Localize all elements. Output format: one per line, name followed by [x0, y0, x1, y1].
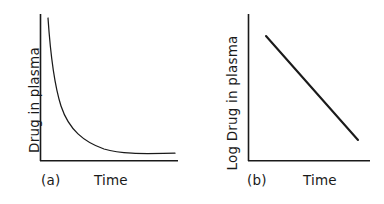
panel-a-caption: (a) — [41, 172, 60, 188]
panel-b-caption: (b) — [247, 172, 267, 188]
panel-a: Drug in plasma (a) Time — [0, 0, 192, 204]
panel-a-y-axis-label: Drug in plasma — [26, 40, 42, 160]
panel-b-log-linear-line — [266, 36, 358, 140]
panel-a-x-axis-label: Time — [94, 172, 128, 188]
panel-b-y-axis-label: Log Drug in plasma — [224, 28, 240, 178]
panel-a-decay-curve — [48, 18, 175, 154]
panel-b-plot — [192, 0, 384, 204]
panel-b-x-axis-label: Time — [303, 172, 337, 188]
pharmacokinetics-figure: Drug in plasma (a) Time Log Drug in plas… — [0, 0, 384, 204]
panel-b: Log Drug in plasma (b) Time — [192, 0, 384, 204]
